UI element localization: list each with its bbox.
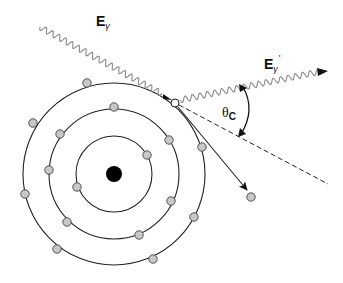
electron: [167, 197, 175, 205]
diagram-canvas: [0, 0, 343, 283]
electron: [110, 103, 118, 111]
electron: [63, 218, 71, 226]
electron: [73, 183, 81, 191]
electron: [29, 119, 37, 127]
scattered-arrowhead-icon: [317, 68, 328, 76]
scatter-angle-arc: [241, 87, 249, 134]
scattered-photon-label: Eγ': [264, 55, 280, 73]
electron: [53, 245, 61, 253]
compton-diagram: Eγ Eγ' θC: [0, 0, 343, 283]
electron: [56, 130, 64, 138]
target-electron: [171, 99, 179, 107]
incident-arrowhead-icon: [163, 94, 172, 100]
electron: [135, 231, 143, 239]
ejected-electron-path: [178, 107, 247, 190]
angle-arrowhead-bottom-icon: [238, 128, 246, 137]
electron: [21, 190, 29, 198]
electron: [149, 255, 157, 263]
electron: [143, 151, 151, 159]
electron: [83, 79, 91, 87]
electron: [45, 166, 53, 174]
nucleus: [106, 166, 122, 182]
electron: [165, 136, 173, 144]
incident-photon-label: Eγ: [96, 12, 110, 30]
scatter-angle-label: θC: [222, 103, 236, 121]
electron: [198, 143, 206, 151]
ejected-electron: [247, 193, 255, 201]
incident-photon-wave: [40, 27, 162, 96]
scattered-photon-wave: [180, 70, 317, 103]
electron: [190, 213, 198, 221]
